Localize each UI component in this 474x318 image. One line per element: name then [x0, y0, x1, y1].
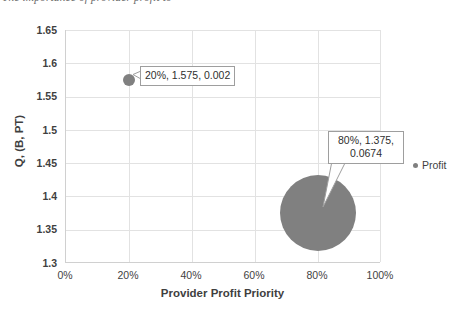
gridline-horizontal: [66, 63, 380, 64]
gridline-horizontal: [66, 97, 380, 98]
chart-legend[interactable]: Profit: [413, 159, 447, 171]
data-label-large[interactable]: 80%, 1.375, 0.0674: [328, 131, 404, 164]
y-axis-tick: 1.3: [17, 258, 57, 269]
y-axis-title: Q, (B, PT): [13, 86, 25, 196]
x-axis-tick: 60%: [229, 269, 279, 281]
legend-label-profit: Profit: [422, 159, 447, 171]
gridline-vertical: [192, 30, 193, 262]
y-axis-tick: 1.65: [17, 25, 57, 36]
x-axis-tick: 40%: [166, 269, 216, 281]
x-axis-tick: 0%: [40, 269, 90, 281]
data-label-small-text: 20%, 1.575, 0.002: [145, 69, 230, 81]
x-axis-tick: 20%: [103, 269, 153, 281]
data-label-small[interactable]: 20%, 1.575, 0.002: [140, 66, 235, 86]
data-label-large-line2: 0.0674: [333, 147, 399, 160]
gridline-horizontal: [66, 30, 380, 31]
data-label-large-line1: 80%, 1.375,: [333, 134, 399, 147]
y-axis-tick: 1.6: [17, 58, 57, 69]
x-axis-tick: 80%: [292, 269, 342, 281]
x-axis-tick: 100%: [355, 269, 405, 281]
y-axis-tick: 1.35: [17, 224, 57, 235]
legend-marker-icon: [413, 163, 418, 168]
bubble-point-small[interactable]: [123, 74, 135, 86]
gridline-vertical: [255, 30, 256, 262]
bubble-point-large[interactable]: [280, 175, 356, 251]
gridline-vertical: [129, 30, 130, 262]
bubble-chart: 20%, 1.575, 0.002 80%, 1.375, 0.0674 1.6…: [0, 0, 474, 318]
x-axis-title: Provider Profit Priority: [65, 287, 380, 299]
